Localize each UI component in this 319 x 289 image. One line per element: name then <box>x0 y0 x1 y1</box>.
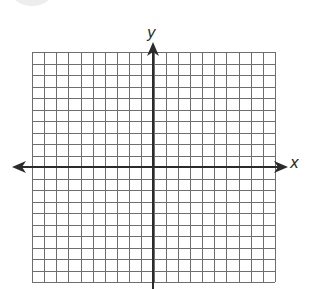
y-axis-label: y <box>147 26 156 41</box>
x-axis-label: x <box>290 156 299 171</box>
coordinate-plane: y x <box>0 0 319 289</box>
grid-lines <box>0 0 319 289</box>
